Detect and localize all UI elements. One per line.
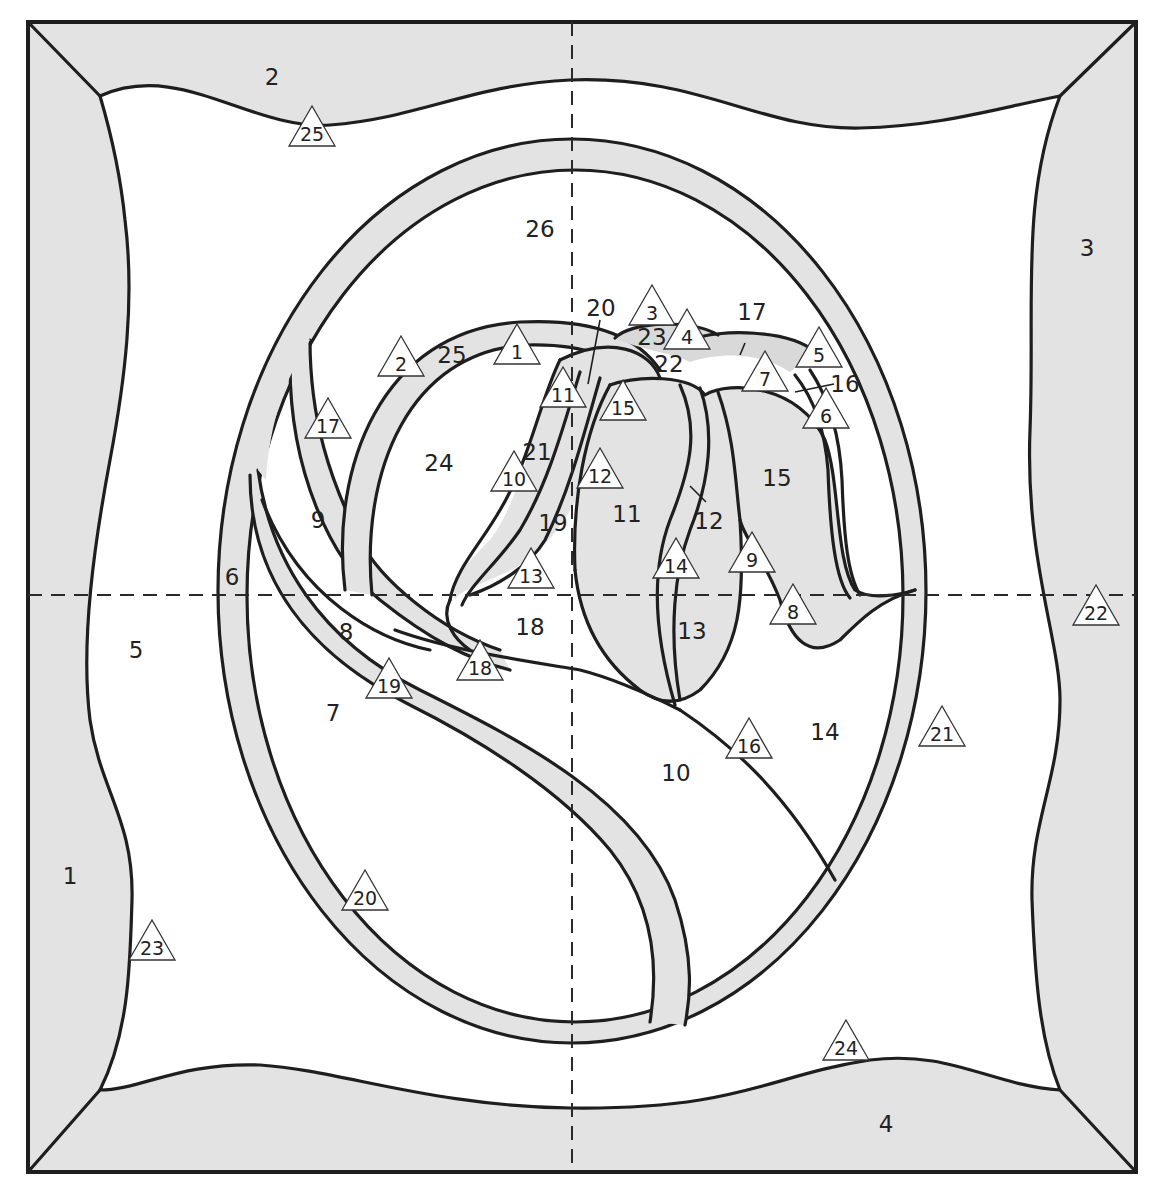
marker-label: 9 <box>746 549 758 571</box>
piece-label-24: 24 <box>424 450 453 476</box>
piece-label-18: 18 <box>515 614 544 640</box>
marker-label: 17 <box>316 415 340 437</box>
marker-label: 6 <box>820 405 832 427</box>
piece-label-16: 16 <box>830 371 859 397</box>
marker-label: 16 <box>737 735 761 757</box>
marker-label: 19 <box>377 675 401 697</box>
piece-label-1: 1 <box>63 863 78 889</box>
marker-label: 4 <box>681 326 693 348</box>
marker-label: 3 <box>646 302 658 324</box>
marker-label: 12 <box>588 465 612 487</box>
piece-label-3: 3 <box>1080 235 1095 261</box>
piece-label-13: 13 <box>677 618 706 644</box>
marker-label: 22 <box>1084 602 1108 624</box>
marker-label: 25 <box>300 123 324 145</box>
marker-label: 18 <box>468 657 492 679</box>
marker-label: 21 <box>930 723 954 745</box>
piece-label-12: 12 <box>694 508 723 534</box>
piece-label-21: 21 <box>522 439 551 465</box>
piece-label-17: 17 <box>737 299 766 325</box>
piece-label-4: 4 <box>879 1111 894 1137</box>
marker-label: 1 <box>511 341 523 363</box>
marker-label: 5 <box>813 344 825 366</box>
piece-label-10: 10 <box>661 760 690 786</box>
marker-label: 7 <box>759 368 771 390</box>
piece-label-26: 26 <box>525 216 554 242</box>
marker-label: 2 <box>395 353 407 375</box>
marker-label: 23 <box>140 937 164 959</box>
marker-label: 11 <box>551 384 575 406</box>
marker-label: 24 <box>834 1037 858 1059</box>
pattern-artwork: 1234567891011121314151617181920212223242… <box>0 0 1152 1185</box>
piece-label-22: 22 <box>654 351 683 377</box>
marker-label: 13 <box>519 565 543 587</box>
marker-label: 15 <box>611 397 635 419</box>
stained-glass-pattern: 1234567891011121314151617181920212223242… <box>0 0 1152 1185</box>
piece-label-19: 19 <box>538 510 567 536</box>
piece-label-20: 20 <box>586 295 615 321</box>
marker-label: 8 <box>787 601 799 623</box>
piece-label-23: 23 <box>637 324 666 350</box>
piece-label-11: 11 <box>612 501 641 527</box>
marker-label: 14 <box>664 555 688 577</box>
piece-label-25: 25 <box>437 342 466 368</box>
piece-label-2: 2 <box>265 64 280 90</box>
marker-label: 10 <box>502 468 526 490</box>
piece-label-15: 15 <box>762 465 791 491</box>
piece-label-6: 6 <box>225 564 240 590</box>
marker-label: 20 <box>353 887 377 909</box>
piece-label-8: 8 <box>339 619 354 645</box>
piece-label-14: 14 <box>810 719 839 745</box>
piece-label-9: 9 <box>311 507 326 533</box>
piece-label-5: 5 <box>129 637 144 663</box>
piece-label-7: 7 <box>326 700 341 726</box>
